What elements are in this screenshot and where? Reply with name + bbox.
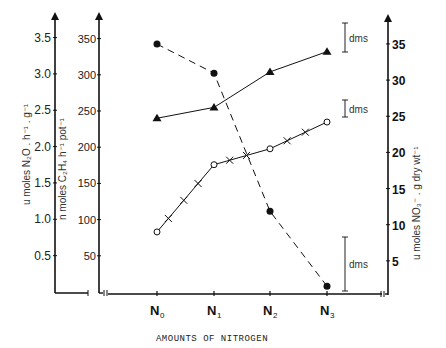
triangle-marker [210, 103, 219, 111]
left1-tick-label: 2.5 [34, 103, 51, 117]
left2-tick-label: 150 [78, 177, 96, 189]
dms-label: dms [349, 259, 368, 270]
filled-circle-marker [324, 283, 331, 290]
x-category-label: N [150, 303, 159, 318]
cross-marker [226, 157, 233, 164]
x-axis-title: AMOUNTS OF NITROGEN [156, 334, 268, 344]
left2-tick-label: 50 [84, 250, 96, 262]
x-category-label: N [263, 303, 272, 318]
right-axis-title: u moles NO₃⁻ . g dry wt⁻¹ [411, 146, 422, 260]
chart-svg: 0.51.01.52.02.53.03.55010015020025030035… [0, 0, 446, 348]
left1-tick-label: 1.5 [34, 176, 51, 190]
svg-text:2: 2 [273, 311, 278, 320]
triangle-marker [323, 47, 332, 55]
left2-tick-label: 200 [78, 141, 96, 153]
x-category-label: N [320, 303, 329, 318]
axes-group: 0.51.01.52.02.53.03.55010015020025030035… [34, 16, 405, 297]
right-tick-label: 20 [392, 146, 406, 160]
filled-circle-marker [267, 208, 274, 215]
left1-tick-label: 3.5 [34, 31, 51, 45]
cross-marker [165, 215, 172, 222]
left1-tick-label: 2.0 [34, 140, 51, 154]
x-category-label: N [207, 303, 216, 318]
series-line [157, 122, 327, 232]
right-tick-label: 30 [392, 74, 406, 88]
left2-axis-title: n moles C₂H₄ h⁻¹ pot⁻¹ [57, 117, 68, 220]
right-tick-label: 35 [392, 38, 406, 52]
left1-axis-title: u moles N₂O . h⁻¹ . g⁻¹ [21, 103, 32, 205]
cross-marker [302, 129, 309, 136]
svg-text:3: 3 [330, 311, 335, 320]
open-circle-marker [154, 229, 160, 235]
open-circle-marker [324, 119, 330, 125]
cross-marker [195, 180, 202, 187]
left1-tick-label: 0.5 [34, 249, 51, 263]
left2-tick-label: 350 [78, 33, 96, 45]
right-tick-label: 15 [392, 183, 406, 197]
right-tick-label: 10 [392, 219, 406, 233]
filled-circle-marker [154, 41, 161, 48]
filled-circle-marker [211, 70, 218, 77]
cross-marker [284, 137, 291, 144]
left1-tick-label: 1.0 [34, 212, 51, 226]
dms-label: dms [349, 33, 368, 44]
series-line [157, 52, 327, 119]
right-tick-label: 25 [392, 110, 406, 124]
svg-text:0: 0 [160, 311, 165, 320]
left2-tick-label: 250 [78, 105, 96, 117]
series-line [157, 44, 327, 286]
open-circle-marker [211, 162, 217, 168]
series-group [153, 41, 332, 290]
open-circle-marker [267, 146, 273, 152]
svg-text:1: 1 [217, 311, 222, 320]
dms-label: dms [349, 104, 368, 115]
cross-marker [180, 197, 187, 204]
left1-tick-label: 3.0 [34, 67, 51, 81]
left2-tick-label: 100 [78, 214, 96, 226]
left2-tick-label: 300 [78, 69, 96, 81]
right-tick-label: 5 [392, 255, 399, 269]
